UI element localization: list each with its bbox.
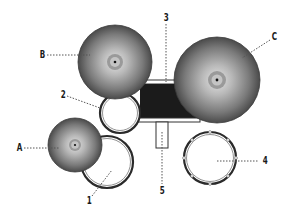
drum-kit-svg [0, 0, 288, 217]
label-3: 3 [164, 13, 169, 23]
label-c: C [272, 32, 277, 42]
label-4: 4 [263, 156, 268, 166]
drum-kit-diagram: B 3 C 2 A 1 5 4 [0, 0, 288, 217]
label-b: B [40, 50, 45, 60]
label-2: 2 [61, 90, 66, 100]
cymbal-c [174, 37, 260, 123]
label-1: 1 [87, 196, 92, 206]
label-a: A [17, 143, 23, 153]
label-5: 5 [160, 186, 165, 196]
cymbal-b [78, 25, 152, 99]
drum-4-floor-tom [183, 131, 238, 186]
cymbal-a [48, 118, 102, 172]
